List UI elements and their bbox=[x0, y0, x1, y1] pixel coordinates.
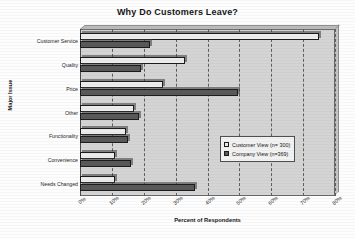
x-axis-tick-label: 40% bbox=[203, 195, 215, 206]
x-axis-tick-label: 30% bbox=[172, 195, 184, 206]
bar-company-view bbox=[80, 89, 238, 96]
legend-swatch-customer-view bbox=[224, 142, 229, 147]
x-axis-tick-label: 20% bbox=[140, 195, 152, 206]
y-axis-category-label: Convenience bbox=[4, 157, 78, 163]
legend-label-customer-view: Customer View (n= 300) bbox=[232, 142, 290, 148]
y-axis-category-label: Customer Service bbox=[4, 38, 78, 44]
y-axis-category-label: Price bbox=[4, 86, 78, 92]
gridline bbox=[239, 29, 240, 196]
gridline bbox=[303, 29, 304, 196]
gridline bbox=[271, 29, 272, 196]
bar-company-view bbox=[80, 113, 139, 120]
x-axis-tick-label: 70% bbox=[299, 195, 311, 206]
x-axis-tick-labels: 0%10%20%30%40%50%60%70%80% bbox=[80, 198, 340, 210]
chart-legend: Customer View (n= 300) Company View (n=3… bbox=[220, 136, 295, 162]
x-axis-tick-label: 80% bbox=[331, 195, 343, 206]
bar-company-view bbox=[80, 65, 141, 72]
x-axis-tick-label: 10% bbox=[108, 195, 120, 206]
x-axis-tick-label: 50% bbox=[235, 195, 247, 206]
y-axis-category-labels: Customer ServiceQualityPriceOtherFunctio… bbox=[0, 29, 78, 196]
legend-item: Company View (n=369) bbox=[224, 149, 290, 158]
bar-company-view bbox=[80, 160, 131, 167]
bar-company-view bbox=[80, 136, 128, 143]
x-axis-title: Percent of Respondents bbox=[80, 217, 335, 223]
y-axis-category-label: Needs Changed bbox=[4, 181, 78, 187]
legend-swatch-company-view bbox=[224, 151, 229, 156]
y-axis-category-label: Other bbox=[4, 110, 78, 116]
chart-title: Why Do Customers Leave? bbox=[0, 7, 355, 17]
gridline bbox=[208, 29, 209, 196]
x-axis-tick-label: 0% bbox=[77, 196, 87, 205]
y-axis-category-label: Functionality bbox=[4, 133, 78, 139]
x-axis-tick-label: 60% bbox=[267, 195, 279, 206]
bar-company-view bbox=[80, 41, 150, 48]
gridline bbox=[335, 29, 336, 196]
chart-container: Why Do Customers Leave? Major Issue Cust… bbox=[0, 0, 355, 238]
y-axis-category-label: Quality bbox=[4, 62, 78, 68]
bar-company-view bbox=[80, 184, 195, 191]
legend-item: Customer View (n= 300) bbox=[224, 140, 290, 149]
legend-label-company-view: Company View (n=369) bbox=[232, 151, 288, 157]
plot-area bbox=[80, 29, 335, 196]
